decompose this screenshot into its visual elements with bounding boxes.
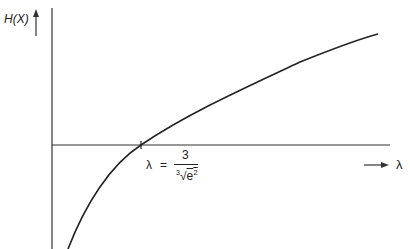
up-arrow-icon [33,9,39,36]
formula-lambda: λ [146,158,152,172]
diagram-canvas [0,0,410,249]
formula-equals: = [160,158,167,172]
formula-denominator: √e2 [180,168,198,183]
function-curve [68,34,378,249]
x-axis-label: λ [396,157,403,172]
fraction-bar [174,164,198,165]
radicand-exponent: 2 [193,168,197,177]
y-axis-label: H(X) [4,12,29,26]
right-arrow-icon [364,162,389,168]
formula-numerator: 3 [182,148,189,162]
